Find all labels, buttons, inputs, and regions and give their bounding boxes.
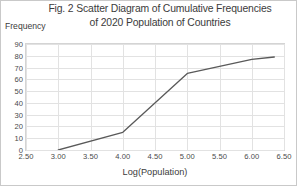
cumulative-frequency-polyline [58, 57, 274, 150]
x-tick-label: 5.00 [180, 152, 195, 161]
chart-figure: Fig. 2 Scatter Diagram of Cumulative Fre… [0, 0, 297, 186]
x-tick-label: 6.50 [277, 152, 292, 161]
x-tick-label: 5.50 [212, 152, 227, 161]
x-tick-label: 4.00 [115, 152, 130, 161]
x-axis-label: Log(Population) [25, 167, 285, 177]
x-tick-label: 2.50 [19, 152, 34, 161]
y-tick-label: 20 [1, 122, 23, 131]
chart-title-line-2: of 2020 Population of Countries [31, 16, 289, 30]
y-tick-label: 30 [1, 110, 23, 119]
x-axis-ticks: 2.503.003.504.004.505.005.506.006.50 [25, 152, 285, 164]
horizontal-gridline [26, 150, 284, 151]
x-tick-label: 6.00 [244, 152, 259, 161]
chart-title: Fig. 2 Scatter Diagram of Cumulative Fre… [31, 2, 289, 29]
y-tick-label: 60 [1, 75, 23, 84]
x-tick-label: 3.50 [83, 152, 98, 161]
x-tick-label: 4.50 [148, 152, 163, 161]
data-line-series [26, 44, 284, 150]
y-axis-label: Frequency [5, 21, 46, 31]
chart-title-line-1: Fig. 2 Scatter Diagram of Cumulative Fre… [48, 3, 271, 14]
x-tick-label: 3.00 [51, 152, 66, 161]
y-axis-ticks: 0102030405060708090 [1, 43, 23, 151]
y-tick-label: 10 [1, 134, 23, 143]
plot-area [25, 43, 285, 151]
y-tick-label: 70 [1, 63, 23, 72]
y-tick-label: 80 [1, 51, 23, 60]
y-tick-label: 40 [1, 98, 23, 107]
y-tick-label: 90 [1, 40, 23, 49]
vertical-gridline [284, 44, 285, 150]
y-tick-label: 50 [1, 87, 23, 96]
